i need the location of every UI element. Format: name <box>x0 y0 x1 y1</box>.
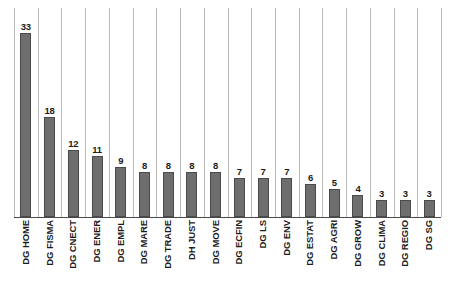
gridline <box>441 8 442 217</box>
tick-label-slot: DG TRADE <box>156 220 180 292</box>
bar-value-label: 5 <box>332 178 337 188</box>
bar <box>258 178 269 217</box>
bar-slot: 8 <box>133 8 157 217</box>
bar <box>186 172 197 217</box>
x-tick-label: DG ECFIN <box>235 220 245 265</box>
tick-label-slot: DG ECFIN <box>227 220 251 292</box>
bar-value-label: 12 <box>68 139 78 149</box>
bar-value-label: 3 <box>403 189 408 199</box>
bar-value-label: 4 <box>355 184 360 194</box>
x-tick-label: DG CNECT <box>69 220 79 269</box>
bar-slot: 7 <box>227 8 251 217</box>
bars-layer: 3318121198888777654333 <box>14 8 441 217</box>
tick-label-slot: DG REGIO <box>394 220 418 292</box>
bar <box>305 184 316 217</box>
bar-slot: 33 <box>14 8 38 217</box>
bar-slot: 9 <box>109 8 133 217</box>
x-tick-label: DG ENV <box>282 220 292 256</box>
x-tick-label: DG MOVE <box>211 220 221 264</box>
bar-slot: 3 <box>394 8 418 217</box>
bar-value-label: 3 <box>379 189 384 199</box>
bar <box>92 156 103 217</box>
bar-slot: 8 <box>180 8 204 217</box>
bar <box>68 150 79 217</box>
bar-value-label: 33 <box>21 22 31 32</box>
bar-value-label: 18 <box>44 106 54 116</box>
tick-label-slot: DG LS <box>251 220 275 292</box>
bar-value-label: 8 <box>213 161 218 171</box>
bar-value-label: 9 <box>118 156 123 166</box>
bar-slot: 4 <box>346 8 370 217</box>
bar-value-label: 7 <box>237 167 242 177</box>
bar <box>376 200 387 217</box>
x-tick-label: DG SG <box>424 220 434 250</box>
tick-label-slot: DG SG <box>417 220 441 292</box>
x-tick-label: DH JUST <box>187 220 197 260</box>
bar-slot: 7 <box>275 8 299 217</box>
bar-value-label: 7 <box>284 167 289 177</box>
bar <box>139 172 150 217</box>
bar-value-label: 11 <box>92 145 102 155</box>
x-tick-label: DG FISMA <box>45 220 55 266</box>
bar <box>234 178 245 217</box>
x-tick-label: DG TRADE <box>163 220 173 269</box>
x-tick-label: DG AGRI <box>329 220 339 260</box>
bar-slot: 3 <box>417 8 441 217</box>
x-axis-tick-labels: DG HOMEDG FISMADG CNECTDG ENERDG EMPLDG … <box>14 220 441 292</box>
bar-value-label: 7 <box>261 167 266 177</box>
bar-chart: 3318121198888777654333 DG HOMEDG FISMADG… <box>0 0 458 294</box>
x-tick-label: DG ENER <box>92 220 102 263</box>
bar <box>424 200 435 217</box>
x-tick-label: DG HOME <box>21 220 31 265</box>
bar-value-label: 3 <box>427 189 432 199</box>
bar-value-label: 6 <box>308 173 313 183</box>
bar-slot: 8 <box>156 8 180 217</box>
tick-label-slot: DG HOME <box>14 220 38 292</box>
tick-label-slot: DG ENV <box>275 220 299 292</box>
bar-slot: 7 <box>251 8 275 217</box>
x-tick-label: DG ESTAT <box>306 220 316 266</box>
x-tick-label: DG MARE <box>140 220 150 264</box>
bar <box>115 167 126 217</box>
tick-label-slot: DG CLIMA <box>370 220 394 292</box>
tick-label-slot: DG AGRI <box>322 220 346 292</box>
bar <box>20 33 31 217</box>
bar-slot: 18 <box>38 8 62 217</box>
bar-slot: 11 <box>85 8 109 217</box>
bar <box>400 200 411 217</box>
x-tick-label: DG LS <box>258 220 268 249</box>
bar-slot: 12 <box>61 8 85 217</box>
bar <box>163 172 174 217</box>
bar <box>281 178 292 217</box>
tick-label-slot: DG ENER <box>85 220 109 292</box>
tick-label-slot: DG MOVE <box>204 220 228 292</box>
bar <box>44 117 55 217</box>
tick-label-slot: DG ESTAT <box>299 220 323 292</box>
tick-label-slot: DG GROW <box>346 220 370 292</box>
bar-slot: 6 <box>299 8 323 217</box>
tick-label-slot: DG CNECT <box>61 220 85 292</box>
bar-slot: 3 <box>370 8 394 217</box>
x-tick-label: DG REGIO <box>401 220 411 267</box>
tick-label-slot: DG MARE <box>133 220 157 292</box>
bar-value-label: 8 <box>166 161 171 171</box>
bar-value-label: 8 <box>189 161 194 171</box>
x-tick-label: DG GROW <box>353 220 363 267</box>
bar-slot: 8 <box>204 8 228 217</box>
tick-label-slot: DG FISMA <box>38 220 62 292</box>
x-tick-label: DG CLIMA <box>377 220 387 266</box>
x-tick-label: DG EMPL <box>116 220 126 263</box>
bar <box>329 189 340 217</box>
bar-slot: 5 <box>322 8 346 217</box>
tick-label-slot: DH JUST <box>180 220 204 292</box>
bar <box>210 172 221 217</box>
tick-label-slot: DG EMPL <box>109 220 133 292</box>
plot-area: 3318121198888777654333 <box>14 8 441 217</box>
x-axis-line <box>14 217 441 218</box>
bar-value-label: 8 <box>142 161 147 171</box>
bar <box>352 195 363 217</box>
